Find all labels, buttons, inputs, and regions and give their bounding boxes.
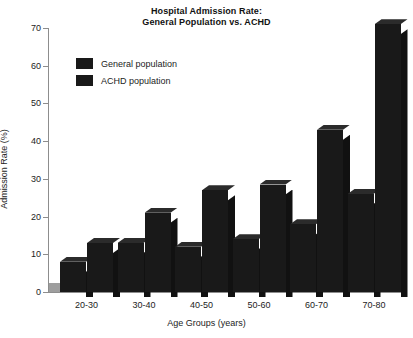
y-tick-label: 0 (36, 287, 41, 297)
bar-front-face (290, 224, 316, 292)
legend-label: ACHD population (101, 76, 171, 86)
bar-front-face (145, 213, 171, 292)
x-tick-label-30-40: 30-40 (132, 300, 155, 310)
x-tick-label-40-50: 40-50 (190, 300, 213, 310)
x-tick-label-50-60: 50-60 (247, 300, 270, 310)
x-tick-label-20-30: 20-30 (75, 300, 98, 310)
bar-front-face (60, 262, 86, 292)
bar-front-face (202, 190, 228, 292)
bar-top-face (317, 125, 350, 130)
bar-top-face (145, 208, 178, 213)
y-tick-label: 30 (31, 174, 41, 184)
bar-50-60-general (233, 239, 259, 292)
bar-60-70-achd (317, 130, 343, 292)
bar-30-40-achd (145, 213, 171, 292)
y-tick-mark (43, 217, 48, 218)
bar-front-face (175, 247, 201, 292)
bar-60-70-general (290, 224, 316, 292)
bar-front-face (260, 185, 286, 292)
y-axis-title: Admission Rate (%) (0, 129, 9, 209)
legend-item-general-population: General population (76, 55, 177, 72)
y-tick-label: 10 (31, 249, 41, 259)
bar-front-face (375, 24, 401, 292)
bar-top-face (260, 180, 293, 185)
y-tick-mark (43, 141, 48, 142)
legend-swatch-icon (76, 58, 93, 69)
y-tick-mark (43, 292, 48, 293)
bar-40-50-achd (202, 190, 228, 292)
y-tick-mark (43, 103, 48, 104)
bar-40-50-general (175, 247, 201, 292)
x-tick-label-70-80: 70-80 (362, 300, 385, 310)
y-tick-label: 40 (31, 136, 41, 146)
y-tick-mark (43, 254, 48, 255)
bar-70-80-general (348, 194, 374, 292)
y-tick-label: 20 (31, 212, 41, 222)
legend-swatch-icon (76, 75, 93, 86)
bar-30-40-general (118, 243, 144, 292)
y-tick-label: 70 (31, 23, 41, 33)
bar-front-face (348, 194, 374, 292)
bar-front-face (317, 130, 343, 292)
chart-legend: General populationACHD population (76, 55, 177, 89)
y-tick-label: 50 (31, 98, 41, 108)
y-tick-label: 60 (31, 61, 41, 71)
x-axis-line (48, 292, 406, 293)
bar-20-30-achd (87, 243, 113, 292)
bar-70-80-achd (375, 24, 401, 292)
x-axis-title: Age Groups (years) (0, 318, 413, 328)
chart-title-line-1: Hospital Admission Rate: (0, 6, 413, 17)
bar-front-face (87, 243, 113, 292)
legend-item-achd-population: ACHD population (76, 72, 177, 89)
bar-20-30-general (60, 262, 86, 292)
y-tick-mark (43, 66, 48, 67)
y-tick-mark (43, 28, 48, 29)
y-tick-mark (43, 179, 48, 180)
bar-top-face (202, 185, 235, 190)
bar-50-60-achd (260, 185, 286, 292)
bar-front-face (233, 239, 259, 292)
bar-front-face (118, 243, 144, 292)
bar-top-face (87, 238, 120, 243)
legend-label: General population (101, 59, 177, 69)
bar-side-face (401, 29, 408, 297)
chart-figure: Hospital Admission Rate: General Populat… (0, 0, 413, 338)
x-tick-label-60-70: 60-70 (305, 300, 328, 310)
y-axis-line (48, 28, 49, 292)
